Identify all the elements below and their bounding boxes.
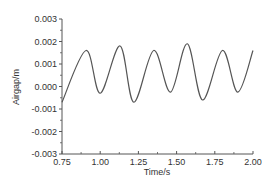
y-axis-ticks: 0.0030.0020.0010.000-0.001-0.002-0.003 [31, 14, 62, 159]
y-tick-label: 0.002 [34, 37, 57, 47]
x-tick-label: 0.75 [53, 157, 71, 167]
x-axis-title: Time/s [144, 167, 171, 177]
x-axis-ticks: 0.751.001.251.501.752.00 [53, 151, 262, 167]
x-tick-label: 1.50 [168, 157, 186, 167]
y-tick-label: -0.002 [31, 127, 57, 137]
airgap-series-line [62, 44, 253, 103]
y-axis-title: Airgap/m [11, 69, 21, 105]
x-tick-label: 1.00 [91, 157, 109, 167]
y-tick-label: 0.003 [34, 14, 57, 24]
y-tick-label: 0.000 [34, 82, 57, 92]
y-tick-label: 0.001 [34, 59, 57, 69]
x-tick-label: 1.75 [206, 157, 224, 167]
y-tick-label: -0.001 [31, 104, 57, 114]
line-chart: 0.0030.0020.0010.000-0.001-0.002-0.003 0… [0, 0, 275, 182]
x-tick-label: 1.25 [130, 157, 148, 167]
x-tick-label: 2.00 [244, 157, 262, 167]
